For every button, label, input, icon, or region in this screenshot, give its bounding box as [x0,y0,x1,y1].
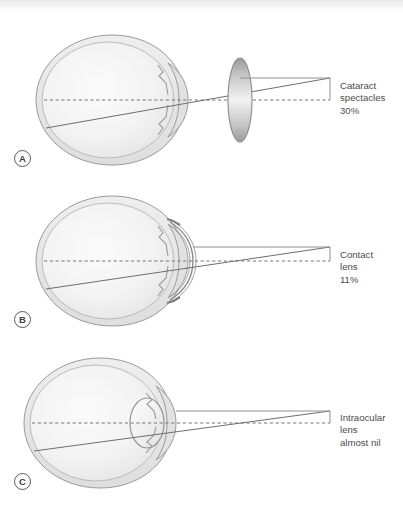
leader-bracket-a [240,78,330,100]
callout-label-c: Intraocular lens almost nil [340,412,403,449]
panel-c-eye-diagram [24,358,330,488]
panel-marker-c: C [14,473,31,490]
panel-b-eye-diagram [36,196,330,326]
callout-label-b: Contact lens 11% [340,249,403,286]
page-edge-strip [0,0,403,9]
panel-a-eye-diagram [36,35,330,165]
panel-marker-a: A [14,150,31,167]
spectacle-lens-a[interactable] [228,58,252,142]
eye-magnification-figure: A B C Cataract spectacles 30% Contact le… [0,0,403,511]
callout-label-a: Cataract spectacles 30% [340,80,403,117]
leader-bracket-b [193,247,330,261]
intraocular-lens-c[interactable] [130,398,164,448]
panel-marker-b: B [14,311,31,328]
